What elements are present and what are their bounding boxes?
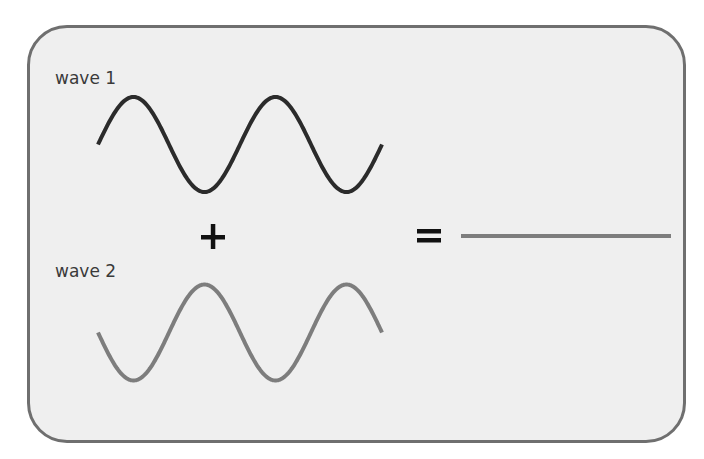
wave-2-curve bbox=[98, 285, 382, 381]
diagram-canvas bbox=[0, 0, 704, 459]
plus-sign bbox=[201, 224, 225, 249]
equals-sign bbox=[417, 229, 441, 243]
wave-1-curve bbox=[98, 97, 382, 192]
